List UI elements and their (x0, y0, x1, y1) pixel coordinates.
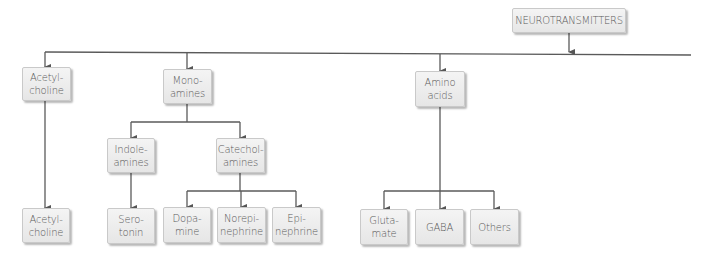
node-gaba: GABA (415, 209, 464, 245)
node-label-line: Mono- (173, 74, 203, 87)
node-acetylcholine: Acetyl- choline (22, 67, 71, 101)
node-label-line: Norepi- (224, 212, 259, 225)
node-label-line: GABA (426, 221, 453, 234)
node-label-line: nephrine (275, 225, 318, 238)
node-label-line: Epi- (287, 212, 305, 225)
node-label-line: nephrine (220, 225, 263, 238)
node-label-line: amines (170, 87, 205, 100)
node-label-line: Indole- (115, 143, 148, 156)
node-label-line: choline (29, 226, 64, 239)
node-label-line: Acetyl- (30, 71, 63, 84)
node-amino-acids: Amino acids (415, 71, 465, 107)
node-indoleamines: Indole- amines (107, 138, 155, 173)
node-dopamine: Dopa- mine (163, 207, 211, 243)
node-monoamines: Mono- amines (163, 69, 212, 104)
node-label-line: mate (371, 227, 396, 240)
node-label-line: Others (478, 221, 510, 234)
node-label-line: Dopa- (173, 212, 202, 225)
node-acetylcholine-leaf: Acetyl- choline (22, 208, 70, 243)
node-label-line: Gluta- (369, 214, 398, 227)
node-label-line: Acetyl- (29, 213, 62, 226)
node-label-line: amines (223, 156, 258, 169)
node-label: NEUROTRANSMITTERS (515, 14, 622, 27)
node-label-line: acids (428, 89, 453, 102)
node-catecholamines: Catechol- amines (216, 138, 265, 173)
node-epinephrine: Epi- nephrine (272, 207, 321, 243)
node-others: Others (470, 209, 519, 245)
node-neurotransmitters: NEUROTRANSMITTERS (512, 8, 626, 33)
node-label-line: Amino (425, 76, 456, 89)
node-label-line: mine (175, 225, 199, 238)
node-label-line: amines (113, 156, 148, 169)
node-label-line: tonin (119, 226, 144, 239)
node-label-line: Sero- (118, 213, 143, 226)
node-label-line: Catechol- (218, 143, 264, 156)
node-serotonin: Sero- tonin (107, 208, 155, 244)
main-bus-line (45, 52, 691, 55)
node-glutamate: Gluta- mate (360, 209, 408, 245)
node-norepinephrine: Norepi- nephrine (217, 207, 266, 243)
neurotransmitter-classification-diagram: NEUROTRANSMITTERS Acetyl- choline Mono- … (0, 0, 709, 255)
node-label-line: choline (29, 84, 64, 97)
